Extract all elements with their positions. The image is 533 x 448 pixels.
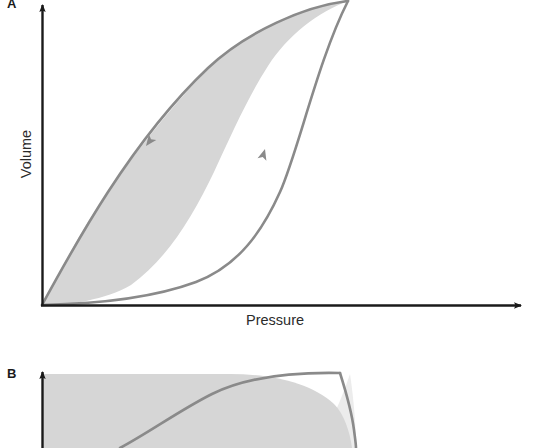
panel-a-hysteresis-area: [42, 1, 348, 305]
panel-a-group: [41, 1, 521, 306]
panel-b-group: [42, 372, 356, 448]
figure-container: A B Volume Pressure: [0, 0, 533, 448]
plot-canvas: [0, 0, 533, 448]
panel-b-primary-area: [42, 374, 352, 448]
panel-a-inflation-arrow-icon: [258, 148, 270, 161]
